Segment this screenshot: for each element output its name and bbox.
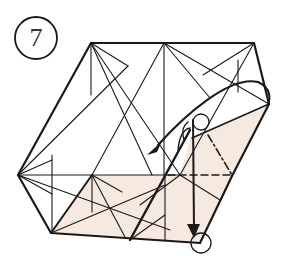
move-arrow-line	[193, 120, 194, 228]
crease	[92, 43, 164, 175]
crease	[203, 43, 254, 75]
crease	[91, 43, 152, 175]
reference-circle-top	[193, 114, 209, 130]
curved-arrow-head	[147, 141, 162, 155]
crease	[164, 43, 210, 98]
crease	[18, 66, 128, 175]
shaded-region	[51, 104, 269, 243]
step-number: 7	[15, 17, 57, 59]
crease	[91, 43, 180, 175]
origami-diagram: 7	[0, 0, 287, 256]
